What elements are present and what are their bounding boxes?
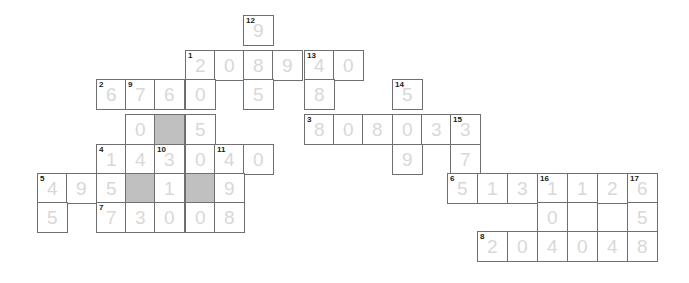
cell-digit: 4	[305, 56, 334, 75]
cell-digit: 3	[508, 179, 537, 198]
cell-digit: 2	[186, 56, 215, 75]
cell-digit: 5	[244, 85, 273, 104]
digit-cell[interactable]: 8	[627, 231, 658, 262]
cell-digit: 8	[215, 208, 244, 227]
cell-digit: 2	[478, 237, 507, 256]
cell-digit: 5	[186, 120, 215, 139]
digit-cell[interactable]: 0	[154, 202, 185, 233]
digit-cell[interactable]: 0	[392, 114, 423, 145]
digit-cell[interactable]: 5	[185, 114, 216, 145]
cell-digit: 4	[538, 237, 567, 256]
cell-digit: 4	[598, 237, 627, 256]
digit-cell[interactable]: 145	[392, 79, 423, 110]
cell-digit: 3	[155, 150, 184, 169]
digit-cell[interactable]: 8	[304, 79, 335, 110]
blocked-cell	[185, 173, 216, 204]
digit-cell[interactable]: 6	[154, 79, 185, 110]
digit-cell[interactable]: 134	[304, 50, 335, 81]
digit-cell[interactable]: 0	[185, 79, 216, 110]
digit-cell[interactable]: 1	[567, 173, 598, 204]
cell-digit: 5	[38, 208, 67, 227]
cell-digit: 0	[186, 208, 215, 227]
digit-cell[interactable]: 2	[597, 173, 628, 204]
digit-cell[interactable]: 3	[421, 114, 452, 145]
digit-cell[interactable]: 0	[185, 144, 216, 175]
cell-digit: 8	[628, 237, 657, 256]
cell-digit: 0	[568, 237, 597, 256]
digit-cell[interactable]: 5	[243, 79, 274, 110]
digit-cell[interactable]: 114	[214, 144, 245, 175]
cell-digit: 0	[215, 56, 244, 75]
digit-cell[interactable]: 4	[537, 231, 568, 262]
digit-cell[interactable]: 176	[627, 173, 658, 204]
cell-digit: 6	[628, 179, 657, 198]
cell-digit: 0	[538, 208, 567, 227]
digit-cell[interactable]: 8	[243, 50, 274, 81]
digit-cell[interactable]: 54	[37, 173, 68, 204]
digit-cell[interactable]: 38	[304, 114, 335, 145]
digit-cell[interactable]: 129	[243, 15, 274, 46]
digit-cell[interactable]: 0	[125, 114, 156, 145]
blocked-cell	[154, 114, 185, 145]
digit-cell[interactable]: 7	[450, 144, 481, 175]
cell-digit: 9	[67, 179, 96, 198]
digit-cell[interactable]: 8	[362, 114, 393, 145]
cell-digit: 0	[334, 120, 363, 139]
digit-cell[interactable]: 1	[477, 173, 508, 204]
digit-cell[interactable]: 0	[243, 144, 274, 175]
cell-digit: 2	[598, 179, 627, 198]
digit-cell[interactable]: 3	[125, 202, 156, 233]
digit-cell[interactable]: 65	[447, 173, 478, 204]
digit-cell[interactable]: 9	[214, 173, 245, 204]
digit-cell[interactable]: 0	[333, 114, 364, 145]
digit-cell[interactable]: 9	[392, 144, 423, 175]
cell-digit: 1	[568, 179, 597, 198]
digit-cell[interactable]: 26	[96, 79, 127, 110]
cell-digit: 7	[126, 85, 155, 104]
digit-cell[interactable]: 0	[214, 50, 245, 81]
digit-cell[interactable]: 12	[185, 50, 216, 81]
cell-digit: 1	[478, 179, 507, 198]
digit-cell[interactable]: 82	[477, 231, 508, 262]
digit-cell[interactable]: 5	[37, 202, 68, 233]
digit-cell[interactable]: 41	[96, 144, 127, 175]
digit-cell[interactable]: 9	[66, 173, 97, 204]
cell-digit: 5	[448, 179, 477, 198]
cell-digit: 0	[244, 150, 273, 169]
crossnumber-puzzle-grid: 1291208913402697605814505380803153414103…	[0, 0, 689, 283]
cell-digit: 4	[126, 150, 155, 169]
digit-cell[interactable]: 77	[96, 202, 127, 233]
cell-digit: 5	[628, 208, 657, 227]
cell-digit: 6	[97, 85, 126, 104]
digit-cell[interactable]: 103	[154, 144, 185, 175]
digit-cell[interactable]: 161	[537, 173, 568, 204]
cell-digit: 8	[305, 120, 334, 139]
digit-cell[interactable]: 153	[450, 114, 481, 145]
cell-digit: 0	[186, 85, 215, 104]
cell-digit: 0	[334, 56, 363, 75]
digit-cell[interactable]: 3	[507, 173, 538, 204]
cell-digit: 8	[363, 120, 392, 139]
cell-digit: 4	[38, 179, 67, 198]
digit-cell[interactable]: 9	[272, 50, 303, 81]
digit-cell[interactable]: 0	[333, 50, 364, 81]
digit-cell[interactable]: 4	[597, 231, 628, 262]
digit-cell[interactable]: 8	[214, 202, 245, 233]
cell-digit: 1	[97, 150, 126, 169]
digit-cell[interactable]: 97	[125, 79, 156, 110]
digit-cell[interactable]: 0	[507, 231, 538, 262]
digit-cell[interactable]: 0	[567, 231, 598, 262]
digit-cell[interactable]: 4	[125, 144, 156, 175]
cell-digit: 0	[186, 150, 215, 169]
digit-cell[interactable]: 1	[154, 173, 185, 204]
digit-cell[interactable]	[567, 202, 598, 233]
digit-cell[interactable]: 0	[537, 202, 568, 233]
digit-cell[interactable]: 5	[96, 173, 127, 204]
cell-digit: 7	[97, 208, 126, 227]
digit-cell[interactable]: 5	[627, 202, 658, 233]
cell-digit: 3	[422, 120, 451, 139]
cell-digit: 3	[126, 208, 155, 227]
cell-digit: 6	[155, 85, 184, 104]
digit-cell[interactable]: 0	[185, 202, 216, 233]
cell-digit: 7	[451, 150, 480, 169]
